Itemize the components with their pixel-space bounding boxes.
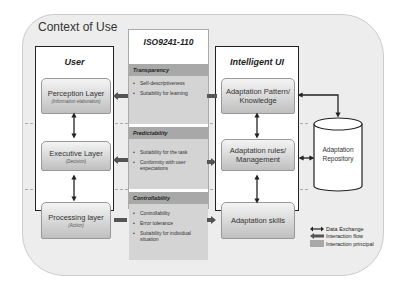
- repository-label: Adaptation Repository: [313, 145, 363, 163]
- legend-item-interaction-principal: Interaction principal: [310, 240, 374, 247]
- legend-item-data-exchange: Data Exchange: [310, 225, 374, 232]
- pattern-repository-arrow: [300, 95, 338, 115]
- thick-arrow-icon: [310, 233, 324, 239]
- double-arrow-icon: [310, 226, 324, 232]
- legend-label: Data Exchange: [326, 226, 364, 232]
- interaction-flow-arrows: [113, 92, 217, 224]
- legend-label: Interaction principal: [326, 241, 374, 247]
- legend-item-interaction-flow: Interaction flow: [310, 233, 374, 240]
- legend: Data Exchange Interaction flow Interacti…: [310, 225, 374, 248]
- gray-box-icon: [310, 240, 324, 247]
- legend-label: Interaction flow: [326, 233, 363, 239]
